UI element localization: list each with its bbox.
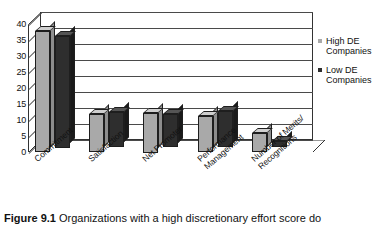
legend-label-high-de: High DE Companies (326, 36, 372, 56)
legend-item-low-de[interactable]: Low DE Companies (318, 65, 390, 85)
y-axis-tick-label: 0 (21, 148, 26, 157)
legend-label-high-de-line2: Companies (326, 46, 372, 56)
figure-caption: Figure 9.1 Organizations with a high dis… (4, 212, 388, 225)
legend-swatch-low-de (318, 68, 322, 72)
y-axis-tick-label-wrap: 15 (0, 100, 26, 109)
y-axis-tick-label: 20 (16, 84, 26, 93)
legend-label-low-de: Low DE Companies (326, 65, 372, 85)
legend-item-high-de[interactable]: High DE Companies (318, 36, 390, 56)
figure-caption-number: Figure 9.1 (4, 212, 56, 224)
legend-label-high-de-line1: High DE (326, 36, 372, 46)
gridline (41, 76, 313, 77)
gridline (41, 92, 313, 93)
figure-9-1: 0510152025303540 CommitmentSatisfactionN… (0, 0, 391, 234)
chart-plot-area: 0510152025303540 CommitmentSatisfactionN… (0, 0, 330, 205)
figure-caption-text: Organizations with a high discretionary … (59, 212, 321, 224)
y-axis-tick-label: 10 (16, 116, 26, 125)
bar (35, 31, 50, 153)
y-axis-tick-label-wrap: 35 (0, 36, 26, 45)
chart-legend: High DE Companies Low DE Companies (318, 36, 390, 94)
y-axis-tick-label: 25 (16, 68, 26, 77)
y-axis-tick-label: 40 (16, 20, 26, 29)
legend-label-low-de-line2: Companies (326, 75, 372, 85)
y-axis-tick-label: 30 (16, 52, 26, 61)
gridline (41, 44, 313, 45)
gridline (41, 12, 313, 13)
gridline (41, 28, 313, 29)
y-axis-tick-label-wrap: 5 (0, 132, 26, 141)
y-axis-tick-label: 5 (21, 132, 26, 141)
y-axis-tick-label-wrap: 20 (0, 84, 26, 93)
y-axis-tick-label-wrap: 40 (0, 20, 26, 29)
legend-swatch-high-de (318, 39, 322, 43)
y-axis-tick-label: 35 (16, 36, 26, 45)
bar-face (35, 31, 50, 153)
y-axis-tick-label: 15 (16, 100, 26, 109)
legend-label-low-de-line1: Low DE (326, 65, 372, 75)
y-axis-tick-label-wrap: 30 (0, 52, 26, 61)
gridline (41, 60, 313, 61)
y-axis-tick-label-wrap: 25 (0, 68, 26, 77)
y-axis-tick-label-wrap: 10 (0, 116, 26, 125)
bar-side (70, 26, 75, 143)
y-axis-tick-label-wrap: 0 (0, 148, 26, 157)
